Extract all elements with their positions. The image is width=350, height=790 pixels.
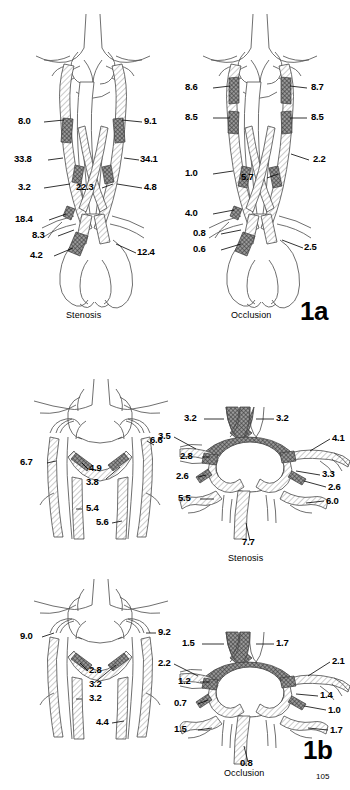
- value-label: 2.6: [328, 482, 341, 492]
- value-label: 4.8: [144, 182, 157, 192]
- value-label: 0.7: [174, 698, 187, 708]
- panel-1b-stenosis-vertebrobasilar: 6.7 4.9 3.8 5.4 5.6 6.6: [20, 375, 180, 540]
- value-label: 18.4: [15, 214, 33, 224]
- value-label: 1.0: [185, 168, 198, 178]
- panel-caption: Occlusion: [231, 310, 271, 320]
- value-label: 5.6: [96, 517, 109, 527]
- value-label: 1.5: [174, 724, 187, 734]
- panel-caption: Occlusion: [224, 768, 264, 778]
- value-label: 8.3: [32, 230, 45, 240]
- value-label: 5.7: [241, 172, 254, 182]
- value-label: 2.8: [89, 665, 102, 675]
- value-label: 3.8: [86, 477, 99, 487]
- value-label: 2.8: [180, 451, 193, 461]
- value-label: 4.2: [30, 250, 43, 260]
- page-number: 105: [316, 772, 329, 781]
- value-label: 2.1: [332, 656, 345, 666]
- value-label: 9.1: [144, 116, 157, 126]
- value-label: 3.2: [89, 679, 102, 689]
- value-label: 0.8: [193, 228, 206, 238]
- value-label: 3.2: [18, 182, 31, 192]
- value-label: 1.7: [276, 638, 289, 648]
- value-label: 9.0: [20, 631, 33, 641]
- value-label: 0.6: [193, 244, 206, 254]
- value-label: 1.2: [178, 676, 191, 686]
- value-label: 4.1: [332, 433, 345, 443]
- value-label: 3.3: [322, 469, 335, 479]
- value-label: 8.5: [185, 112, 198, 122]
- value-label: 5.5: [178, 493, 191, 503]
- panel-1b-stenosis-circle: 3.2 3.5 2.8 2.6 5.5 7.7 3.2 4.1 3.3 2.6 …: [180, 395, 350, 545]
- value-label: 4.0: [185, 208, 198, 218]
- panel-caption: Stenosis: [228, 553, 263, 563]
- value-label: 4.4: [96, 717, 109, 727]
- panel-1a-stenosis: 8.0 33.8 3.2 18.4 8.3 4.2 22.3 9.1 34.1 …: [18, 8, 168, 308]
- panel-caption: Stenosis: [66, 310, 101, 320]
- value-label: 2.5: [304, 242, 317, 252]
- figure-number-1b: 1b: [303, 735, 332, 766]
- value-label: 8.6: [185, 82, 198, 92]
- value-label: 2.2: [313, 154, 326, 164]
- value-label: 3.5: [158, 431, 171, 441]
- value-label: 0.8: [240, 758, 253, 768]
- value-label: 2.6: [176, 471, 189, 481]
- value-label: 12.4: [137, 247, 155, 257]
- value-label: 2.2: [158, 658, 171, 668]
- value-label: 8.5: [311, 112, 324, 122]
- value-label: 3.2: [184, 413, 197, 423]
- value-label: 1.7: [330, 725, 343, 735]
- panel-1b-occlusion-vertebrobasilar: 9.0 2.8 3.2 3.2 4.4 9.2: [20, 575, 180, 740]
- value-label: 8.0: [18, 116, 31, 126]
- panel-1a-occlusion: 8.6 8.5 1.0 4.0 0.8 0.6 5.7 8.7 8.5 2.2 …: [185, 8, 335, 308]
- value-label: 7.7: [242, 537, 255, 547]
- figure-number-1a: 1a: [300, 296, 328, 327]
- value-label: 9.2: [158, 627, 171, 637]
- value-label: 6.7: [20, 457, 33, 467]
- value-label: 5.4: [86, 503, 99, 513]
- value-label: 8.7: [311, 82, 324, 92]
- value-label: 1.5: [182, 638, 195, 648]
- value-label: 3.2: [276, 413, 289, 423]
- value-label: 22.3: [76, 182, 94, 192]
- value-label: 34.1: [140, 154, 158, 164]
- value-label: 4.9: [89, 463, 102, 473]
- value-label: 6.0: [326, 496, 339, 506]
- figure-container: 8.0 33.8 3.2 18.4 8.3 4.2 22.3 9.1 34.1 …: [0, 0, 350, 790]
- value-label: 1.0: [328, 705, 341, 715]
- value-label: 33.8: [14, 154, 32, 164]
- value-label: 1.4: [320, 690, 333, 700]
- value-label: 3.2: [89, 693, 102, 703]
